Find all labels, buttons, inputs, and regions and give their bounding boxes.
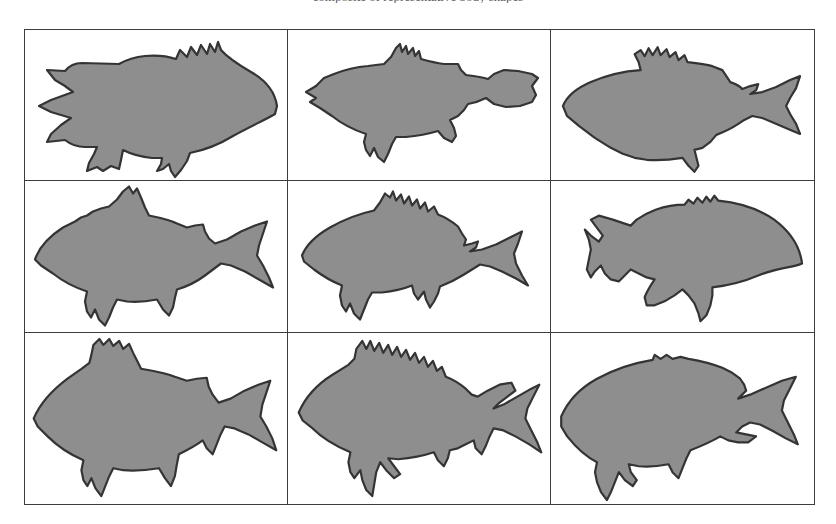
fish-cell-1[interactable] — [25, 30, 288, 181]
fish-cell-5[interactable] — [288, 181, 551, 333]
fish-cell-9[interactable] — [551, 333, 814, 504]
fish-cell-4[interactable] — [25, 181, 288, 333]
figure-frame — [24, 29, 815, 505]
fish-cell-6[interactable] — [551, 181, 814, 333]
clipped-caption-text: composite of representative body shapes — [0, 0, 836, 3]
fish-silhouette-6-icon — [551, 181, 814, 332]
fish-cell-2[interactable] — [288, 30, 551, 181]
fish-silhouette-7-icon — [25, 333, 287, 504]
fish-silhouette-5-icon — [288, 181, 550, 332]
fish-cell-7[interactable] — [25, 333, 288, 504]
fish-silhouette-4-icon — [25, 181, 287, 332]
fish-silhouette-1-icon — [25, 30, 287, 180]
fish-silhouette-3-icon — [551, 30, 814, 180]
fish-silhouette-8-icon — [288, 333, 550, 504]
fish-silhouette-grid — [25, 30, 814, 504]
fish-cell-3[interactable] — [551, 30, 814, 181]
fish-cell-8[interactable] — [288, 333, 551, 504]
fish-silhouette-2-icon — [288, 30, 550, 180]
fish-silhouette-9-icon — [551, 333, 814, 504]
